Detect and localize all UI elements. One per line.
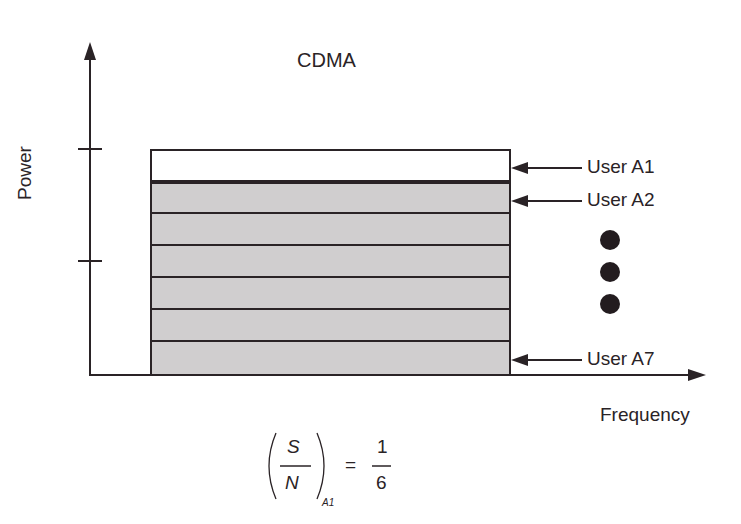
ellipsis-dot-icon	[600, 262, 620, 282]
cdma-diagram-graphics	[0, 0, 741, 524]
band-user-a1	[151, 150, 510, 182]
label-user-a2: User A2	[587, 189, 655, 211]
diagram-title: CDMA	[297, 49, 356, 72]
formula-left-paren	[269, 433, 276, 499]
label-user-a7: User A7	[587, 348, 655, 370]
band-shaded	[151, 182, 510, 375]
power-axis-arrow-icon	[84, 42, 96, 60]
arrowhead-user-a2-icon	[511, 195, 528, 207]
frequency-axis-arrow-icon	[688, 369, 706, 381]
formula-value-denominator: 6	[376, 472, 387, 494]
power-axis-label: Power	[14, 146, 36, 200]
formula-right-paren	[317, 433, 324, 499]
formula-signal: S	[287, 436, 300, 458]
formula-noise: N	[285, 472, 299, 494]
ellipsis-dot-icon	[600, 230, 620, 250]
label-user-a1: User A1	[587, 156, 655, 178]
arrowhead-user-a7-icon	[511, 354, 528, 366]
formula-equals: =	[345, 454, 356, 476]
formula-subscript: A1	[322, 497, 334, 508]
formula-value-numerator: 1	[377, 436, 388, 458]
ellipsis-dot-icon	[600, 294, 620, 314]
arrowhead-user-a1-icon	[511, 162, 528, 174]
frequency-axis-label: Frequency	[600, 404, 690, 426]
